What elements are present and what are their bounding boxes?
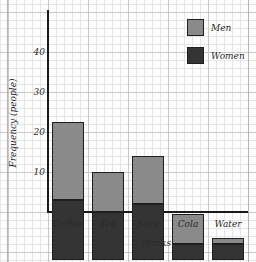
x-label-coffee: Coffee: [50, 219, 86, 229]
bar-segment-juice-women: [132, 204, 164, 260]
y-tick-10: 10: [20, 168, 45, 177]
y-tick-30: 30: [20, 88, 45, 97]
stacked-bar-chart: 40 30 20 10 Frequency (people): [0, 0, 256, 262]
legend-entry-men: Men: [187, 19, 231, 36]
bar-segment-coffee-women: [52, 200, 84, 260]
bar-segment-juice-men: [132, 156, 164, 204]
y-axis-title: Frequency (people): [8, 68, 18, 178]
x-label-tea: Tea: [90, 219, 126, 229]
bar-segment-water-women: [212, 244, 244, 260]
legend-swatch-men-icon: [187, 19, 204, 36]
x-axis-title: Drinks: [133, 238, 179, 248]
y-tick-label-10: 10: [23, 168, 45, 177]
bar-segment-water-men: [212, 238, 244, 244]
y-tick-label-20: 20: [23, 128, 45, 137]
x-label-water: Water: [209, 219, 247, 229]
legend-label-men: Men: [211, 23, 231, 33]
bar-cola: [172, 49, 204, 262]
bar-segment-tea-men: [92, 172, 124, 212]
y-tick-label-30: 30: [23, 88, 45, 97]
x-label-cola: Cola: [170, 219, 206, 229]
x-label-juice: Juice: [130, 219, 166, 229]
legend-entry-women: Women: [187, 47, 245, 64]
legend-label-women: Women: [211, 51, 245, 61]
bar-segment-coffee-men: [52, 122, 84, 200]
bar-water: [212, 49, 244, 262]
legend-swatch-women-icon: [187, 47, 204, 64]
plot-area: 40 30 20 10 Frequency (people): [0, 0, 256, 262]
bar-coffee: [52, 49, 84, 262]
bar-juice: [132, 49, 164, 262]
y-axis-line: [47, 10, 49, 213]
y-tick-40: 40: [20, 48, 45, 57]
bar-tea: [92, 49, 124, 262]
y-tick-20: 20: [20, 128, 45, 137]
y-tick-label-40: 40: [23, 48, 45, 57]
